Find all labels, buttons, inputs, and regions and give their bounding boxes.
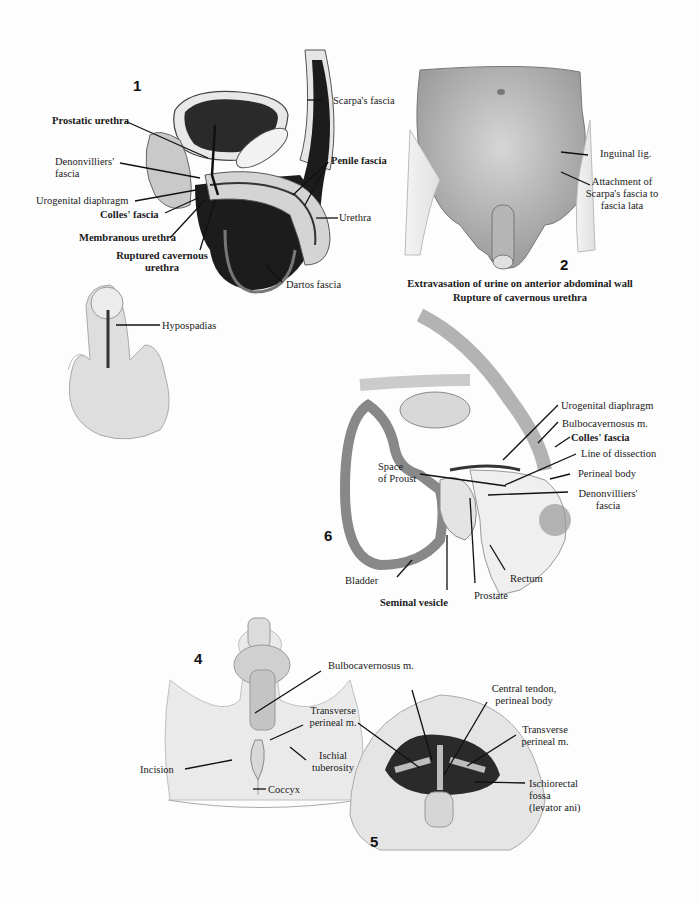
label-perineal-body: Perineal body xyxy=(578,468,636,480)
label-ischial-tuberosity: Ischial tuberosity xyxy=(308,750,358,774)
figure-number-5: 5 xyxy=(370,833,378,850)
figure-3-hypospadias xyxy=(68,285,169,439)
label-line-of-dissection: Line of dissection xyxy=(581,448,656,460)
label-bladder: Bladder xyxy=(345,575,378,587)
caption-rupture: Rupture of cavernous urethra xyxy=(385,292,655,303)
label-colles-fascia: Colles' fascia xyxy=(100,209,159,221)
label-central-tendon: Central tendon, perineal body xyxy=(484,683,564,707)
label-attachment-scarpas-fascia: Attachment of Scarpa's fascia to fascia … xyxy=(577,176,667,212)
figure-number-1: 1 xyxy=(133,77,141,94)
label-inguinal-lig: Inguinal lig. xyxy=(600,148,651,160)
label-seminal-vesicle: Seminal vesicle xyxy=(380,597,448,609)
label-space-of-proust: Space of Proust xyxy=(378,461,416,485)
label-hypospadias: Hypospadias xyxy=(162,320,216,332)
label-transverse-perineal-4: Transverse perineal m. xyxy=(303,705,363,729)
figure-5-dissection xyxy=(350,695,545,850)
label-bulbocavernosus-4: Bulbocavernosus m. xyxy=(328,660,414,672)
figure-2-anterior-view xyxy=(405,66,595,269)
label-penile-fascia: Penile fascia xyxy=(331,155,387,167)
label-prostate: Prostate xyxy=(474,590,508,602)
label-coccyx: Coccyx xyxy=(268,784,300,796)
label-colles-fascia-6: Colles' fascia xyxy=(571,432,630,444)
figure-number-4: 4 xyxy=(194,650,202,667)
label-prostatic-urethra: Prostatic urethra xyxy=(52,115,129,127)
figure-6-pelvic-section xyxy=(345,315,571,595)
label-rectum: Rectum xyxy=(510,573,543,585)
textbook-page: 1 2 6 4 5 Prostatic urethra Denonvillier… xyxy=(0,0,698,904)
label-denonvilliers-fascia: Denonvilliers' fascia xyxy=(55,156,114,180)
label-transverse-perineal-5: Transverse perineal m. xyxy=(515,724,575,748)
label-incision: Incision xyxy=(140,764,174,776)
figure-number-2: 2 xyxy=(560,256,568,273)
label-denonvilliers-fascia-6: Denonvilliers' fascia xyxy=(568,488,648,512)
label-membranous-urethra: Membranous urethra xyxy=(79,232,176,244)
label-ruptured-cavernous-urethra: Ruptured cavernous urethra xyxy=(112,250,212,274)
label-urethra: Urethra xyxy=(339,212,371,224)
label-scarpas-fascia: Scarpa's fascia xyxy=(333,95,395,107)
label-dartos-fascia: Dartos fascia xyxy=(286,279,341,291)
label-urogenital-diaphragm: Urogenital diaphragm xyxy=(36,195,128,207)
label-urogenital-diaphragm-6: Urogenital diaphragm xyxy=(561,400,653,412)
caption-extravasation: Extravasation of urine on anterior abdom… xyxy=(385,278,655,289)
label-bulbocavernosus-6: Bulbocavernosus m. xyxy=(562,418,648,430)
label-ischiorectal-fossa: Ischiorectal fossa (levator ani) xyxy=(529,778,581,814)
figure-number-6: 6 xyxy=(324,527,332,544)
